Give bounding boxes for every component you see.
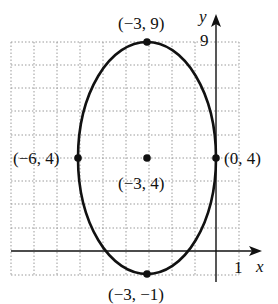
- label-center: (−3, 4): [118, 174, 164, 193]
- point-right: [212, 154, 220, 162]
- y-axis-label: y: [197, 7, 207, 26]
- axes: [11, 14, 262, 282]
- label-top: (−3, 9): [118, 14, 164, 33]
- point-center: [143, 154, 151, 162]
- ellipse-graph: (−3, 9) (−6, 4) (−3, 4) (0, 4) (−3, −1) …: [0, 0, 278, 304]
- y-tick-9: 9: [200, 31, 209, 50]
- point-top: [143, 38, 151, 46]
- x-axis-label: x: [255, 257, 264, 276]
- label-left: (−6, 4): [13, 149, 59, 168]
- label-bottom: (−3, −1): [108, 285, 164, 304]
- point-bottom: [143, 270, 151, 278]
- point-left: [74, 154, 82, 162]
- x-tick-1: 1: [234, 258, 243, 277]
- label-right: (0, 4): [224, 149, 261, 168]
